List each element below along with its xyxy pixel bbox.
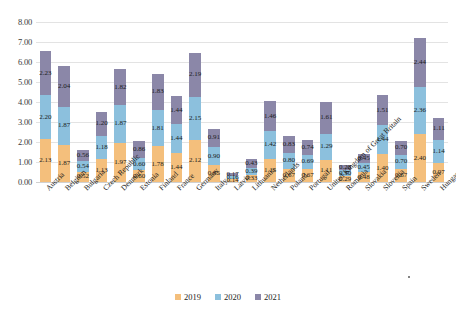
y-axis-tick-label: 7.00 — [0, 37, 32, 47]
y-axis-tick-label: 3.00 — [0, 117, 32, 127]
bar-segment-2020[interactable]: 1.81 — [152, 110, 164, 146]
bar-segment-2019[interactable]: 2.40 — [414, 134, 426, 182]
bar-segment-2021[interactable]: 2.23 — [40, 51, 52, 96]
bar-value-label: 1.87 — [114, 120, 126, 127]
bar-segment-2020[interactable]: 1.14 — [433, 140, 445, 163]
bar-stack[interactable]: 1.781.811.83 — [152, 74, 164, 182]
stray-dot — [408, 276, 410, 278]
bar-segment-2021[interactable]: 1.51 — [377, 95, 389, 125]
y-axis-tick-label: 1.00 — [0, 157, 32, 167]
bar-segment-2021[interactable]: 1.61 — [320, 102, 332, 134]
bar-value-label: 1.20 — [95, 120, 107, 127]
bar-segment-2021[interactable]: 0.83 — [283, 136, 295, 153]
bar-value-label: 1.82 — [114, 84, 126, 91]
bar-segment-2020[interactable]: 2.20 — [40, 95, 52, 139]
bar-value-label: 1.44 — [170, 107, 182, 114]
bar-value-label: 0.83 — [283, 141, 295, 148]
bar-value-label: 2.04 — [58, 83, 70, 90]
legend-label: 2019 — [184, 292, 201, 302]
bar-value-label: 1.11 — [433, 125, 445, 132]
bar-segment-2019[interactable]: 2.13 — [40, 139, 52, 182]
y-axis-tick-label: 4.00 — [0, 97, 32, 107]
bar-segment-2021[interactable]: 2.44 — [414, 38, 426, 87]
y-axis-tick-label: 6.00 — [0, 57, 32, 67]
bar-segment-2021[interactable]: 0.70 — [395, 141, 407, 155]
bar-segment-2021[interactable]: 0.17 — [227, 173, 239, 176]
bar-segment-2020[interactable]: 1.42 — [264, 131, 276, 159]
bar-segment-2020[interactable]: 0.70 — [395, 155, 407, 169]
bar-value-label: 2.36 — [414, 107, 426, 114]
bar-segment-2021[interactable]: 1.11 — [433, 118, 445, 140]
bar-segment-2021[interactable]: 1.46 — [264, 101, 276, 130]
bar-value-label: 0.70 — [395, 158, 407, 165]
bar-segment-2021[interactable]: 1.20 — [96, 112, 108, 136]
bar-segment-2020[interactable]: 1.87 — [114, 105, 126, 142]
bar-segment-2021[interactable]: 1.83 — [152, 74, 164, 111]
bar-segment-2020[interactable]: 0.69 — [302, 155, 314, 169]
legend-item-2020[interactable]: 2020 — [215, 292, 241, 302]
y-axis: 0.001.002.003.004.005.006.007.008.00 — [0, 22, 36, 182]
bar-segment-2020[interactable]: 0.90 — [208, 147, 220, 165]
bar-value-label: 0.90 — [208, 153, 220, 160]
bar-value-label: 1.29 — [320, 143, 332, 150]
bar-value-label: 1.81 — [152, 125, 164, 132]
bar-value-label: 2.20 — [39, 114, 51, 121]
legend-item-2021[interactable]: 2021 — [255, 292, 281, 302]
bar-value-label: 0.70 — [395, 144, 407, 151]
bar-value-label: 0.56 — [77, 152, 89, 159]
plot-area: 2.132.202.231.871.872.040.520.540.561.13… — [36, 22, 448, 182]
bar-value-label: 0.69 — [301, 158, 313, 165]
bar-segment-2021[interactable]: 0.56 — [77, 150, 89, 161]
y-axis-tick-label: 5.00 — [0, 77, 32, 87]
bar-stack[interactable]: 2.122.152.19 — [189, 53, 201, 182]
bar-segment-2021[interactable]: 0.74 — [302, 140, 314, 155]
bar-value-label: 2.13 — [39, 157, 51, 164]
bar-value-label: 2.15 — [189, 115, 201, 122]
x-axis-labels: AustriaBelgiumBulgariaCzech RepublicDenm… — [36, 184, 448, 264]
bar-segment-2021[interactable]: 0.91 — [208, 129, 220, 147]
bar-stack[interactable]: 2.132.202.23 — [40, 51, 52, 182]
bar-stack[interactable]: 1.871.872.04 — [58, 66, 70, 182]
bar-value-label: 0.43 — [245, 160, 257, 167]
bar-segment-2021[interactable]: 1.82 — [114, 69, 126, 105]
bar-segment-2020[interactable]: 2.15 — [189, 97, 201, 140]
bar-value-label: 0.74 — [301, 144, 313, 151]
legend-swatch-icon — [255, 294, 261, 300]
bar-value-label: 2.44 — [414, 59, 426, 66]
bar-value-label: 1.42 — [264, 141, 276, 148]
bar-value-label: 1.51 — [376, 107, 388, 114]
bar-value-label: 1.87 — [58, 160, 70, 167]
legend-label: 2020 — [224, 292, 241, 302]
bar-value-label: 1.83 — [152, 88, 164, 95]
bar-segment-2020[interactable]: 1.87 — [58, 107, 70, 144]
bar-value-label: 1.18 — [95, 144, 107, 151]
y-axis-tick-label: 2.00 — [0, 137, 32, 147]
bar-value-label: 1.87 — [58, 122, 70, 129]
bar-stack[interactable]: 2.402.362.44 — [414, 38, 426, 182]
bar-segment-2021[interactable]: 2.04 — [58, 66, 70, 107]
bar-segment-2020[interactable]: 1.29 — [320, 134, 332, 160]
bar-value-label: 2.12 — [189, 157, 201, 164]
bar-segment-2021[interactable]: 0.43 — [246, 159, 258, 168]
bar-value-label: 0.17 — [227, 171, 239, 178]
bar-segment-2020[interactable]: 1.18 — [96, 136, 108, 160]
bar-value-label: 2.40 — [414, 155, 426, 162]
legend-label: 2021 — [264, 292, 281, 302]
bar-segment-2021[interactable]: 2.19 — [189, 53, 201, 97]
bar-value-label: 2.19 — [189, 71, 201, 78]
legend-item-2019[interactable]: 2019 — [175, 292, 201, 302]
bar-segment-2020[interactable]: 2.36 — [414, 87, 426, 134]
bar-value-label: 0.91 — [208, 134, 220, 141]
bar-value-label: 1.46 — [264, 113, 276, 120]
y-axis-tick-label: 8.00 — [0, 17, 32, 27]
bar-segment-2021[interactable]: 1.44 — [171, 96, 183, 125]
stacked-bar-chart: 0.001.002.003.004.005.006.007.008.00 2.1… — [0, 0, 456, 318]
bar-value-label: 1.14 — [433, 148, 445, 155]
y-axis-tick-label: 0.00 — [0, 177, 32, 187]
bar-segment-2020[interactable]: 1.44 — [171, 124, 183, 153]
legend-swatch-icon — [175, 294, 181, 300]
chart-legend: 201920202021 — [0, 292, 456, 302]
bar-value-label: 1.78 — [152, 161, 164, 168]
bar-value-label: 1.61 — [320, 114, 332, 121]
bar-series-container: 2.132.202.231.871.872.040.520.540.561.13… — [36, 22, 448, 182]
